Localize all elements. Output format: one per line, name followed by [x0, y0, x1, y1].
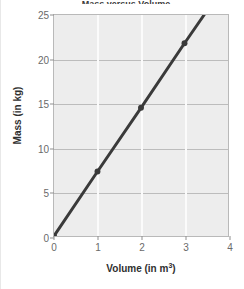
x-axis-title: Volume (in m3) [53, 263, 229, 274]
x-tick-label: 1 [95, 242, 101, 253]
x-tick-mark [230, 236, 231, 240]
x-axis-title-tail: ) [172, 263, 175, 274]
x-tick-mark [142, 236, 143, 240]
y-tick-label: 0 [43, 233, 49, 244]
y-tick-label: 25 [38, 10, 49, 21]
y-tick-label: 10 [38, 143, 49, 154]
x-tick-label: 4 [227, 242, 233, 253]
x-axis-title-text: Volume (in m [106, 263, 168, 274]
x-tick-label: 3 [183, 242, 189, 253]
y-axis-title: Mass (in kg) [12, 56, 23, 176]
x-tick-label: 2 [139, 242, 145, 253]
y-tick-label: 20 [38, 54, 49, 65]
data-point [138, 105, 144, 111]
plot-area: 0510152025 01234 [53, 14, 229, 237]
y-tick-label: 5 [43, 188, 49, 199]
chart-title-cropped: Mass versus Volume [61, 0, 191, 4]
chart-figure: Mass versus Volume 0510152025 01234 Volu… [0, 0, 244, 289]
series-line [54, 15, 204, 236]
data-series [54, 15, 228, 236]
x-tick-mark [98, 236, 99, 240]
x-tick-mark [186, 236, 187, 240]
data-point [95, 168, 101, 174]
y-tick-label: 15 [38, 99, 49, 110]
data-point [182, 40, 188, 46]
x-tick-label: 0 [51, 242, 57, 253]
x-tick-mark [54, 236, 55, 240]
